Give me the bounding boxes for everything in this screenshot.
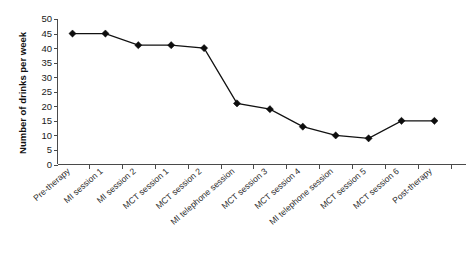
y-tick-label: 30 xyxy=(41,72,52,83)
y-axis-title: Number of drinks per week xyxy=(17,31,28,154)
y-tick-label: 50 xyxy=(41,13,52,24)
y-tick-label: 5 xyxy=(47,144,52,155)
y-tick-label: 40 xyxy=(41,43,52,54)
y-tick-label: 25 xyxy=(41,86,52,97)
drinks-per-week-line-chart: Number of drinks per week 05101520253035… xyxy=(0,0,476,263)
y-tick-label: 35 xyxy=(41,57,52,68)
y-tick-label: 0 xyxy=(47,159,52,170)
y-tick-label: 15 xyxy=(41,115,52,126)
y-axis-title-text: Number of drinks per week xyxy=(17,31,28,154)
chart-background xyxy=(0,0,476,263)
y-tick-label: 20 xyxy=(41,101,52,112)
y-tick-label: 45 xyxy=(41,28,52,39)
y-tick-label: 10 xyxy=(41,130,52,141)
